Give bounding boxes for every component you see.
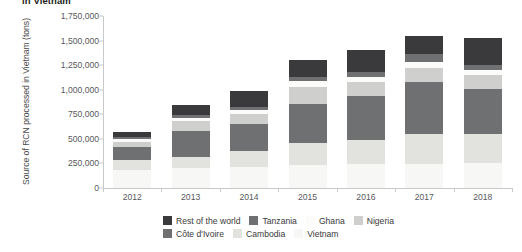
y-tick-label: 1,250,000 — [61, 60, 99, 70]
x-tick-mark — [512, 188, 513, 192]
legend-item[interactable]: Ghana — [306, 216, 345, 226]
legend-swatch-icon — [354, 216, 363, 225]
legend-row: Rest of the worldTanzaniaGhanaNigeria — [163, 214, 513, 227]
bar-segment — [289, 87, 327, 104]
bar-2014[interactable] — [230, 91, 268, 188]
bar-segment — [230, 91, 268, 107]
legend-label: Cambodia — [246, 229, 285, 239]
x-tick-label: 2015 — [298, 192, 317, 202]
x-tick-label: 2013 — [181, 192, 200, 202]
y-tick-mark — [99, 40, 103, 41]
bar-segment — [464, 75, 502, 88]
bar-segment — [230, 124, 268, 151]
bar-segment — [172, 157, 210, 169]
bar-segment — [172, 105, 210, 115]
bar-segment — [405, 68, 443, 82]
y-tick-mark — [99, 65, 103, 66]
y-tick-label: 1,000,000 — [61, 85, 99, 95]
bar-2013[interactable] — [172, 105, 210, 188]
bar-segment — [464, 163, 502, 188]
bar-segment — [347, 50, 385, 72]
x-tick-mark — [395, 188, 396, 192]
bar-segment — [113, 160, 151, 171]
legend-item[interactable]: Cambodia — [233, 229, 285, 239]
legend-item[interactable]: Tanzania — [249, 216, 296, 226]
y-tick-mark — [99, 89, 103, 90]
bar-2017[interactable] — [405, 36, 443, 188]
y-tick-label: 250,000 — [68, 158, 99, 168]
legend-swatch-icon — [294, 229, 303, 238]
legend-label: Vietnam — [307, 229, 338, 239]
y-tick-label: 500,000 — [68, 134, 99, 144]
bar-segment — [347, 140, 385, 165]
bar-2015[interactable] — [289, 60, 327, 188]
x-tick-mark — [161, 188, 162, 192]
bar-segment — [464, 38, 502, 66]
chart-container: in Vietnam Source of RCN processed in Vi… — [0, 0, 522, 252]
bar-segment — [172, 131, 210, 157]
x-tick-label: 2018 — [473, 192, 492, 202]
x-axis-line — [103, 188, 512, 189]
bar-segment — [289, 165, 327, 188]
y-tick-label: 750,000 — [68, 109, 99, 119]
y-tick-label: 1,500,000 — [61, 36, 99, 46]
bar-segment — [289, 60, 327, 77]
x-tick-label: 2014 — [240, 192, 259, 202]
legend-label: Tanzania — [262, 216, 296, 226]
x-tick-label: 2012 — [123, 192, 142, 202]
bar-segment — [347, 82, 385, 96]
bar-segment — [113, 170, 151, 188]
x-tick-label: 2016 — [356, 192, 375, 202]
bar-segment — [464, 134, 502, 163]
plot-area — [103, 16, 512, 188]
x-tick-mark — [220, 188, 221, 192]
y-axis-tick-labels: 0250,000500,000750,0001,000,0001,250,000… — [0, 0, 99, 252]
bar-segment — [405, 164, 443, 188]
legend-label: Ghana — [319, 216, 345, 226]
bar-segment — [347, 96, 385, 140]
legend-swatch-icon — [249, 216, 258, 225]
legend-item[interactable]: Vietnam — [294, 229, 338, 239]
x-tick-mark — [278, 188, 279, 192]
bar-segment — [405, 82, 443, 134]
legend-swatch-icon — [233, 229, 242, 238]
legend-row: Côte d'IvoireCambodiaVietnam — [163, 227, 513, 240]
x-axis-tick-labels: 2012201320142015201620172018 — [103, 192, 512, 206]
legend-label: Nigeria — [367, 216, 394, 226]
y-tick-mark — [99, 16, 103, 17]
y-tick-mark — [99, 138, 103, 139]
legend-swatch-icon — [306, 216, 315, 225]
x-tick-mark — [454, 188, 455, 192]
legend-label: Côte d'Ivoire — [176, 229, 224, 239]
bar-segment — [113, 147, 151, 160]
bar-segment — [230, 151, 268, 168]
y-tick-mark — [99, 163, 103, 164]
bar-segment — [347, 164, 385, 188]
bar-segment — [230, 114, 268, 124]
bar-segment — [405, 134, 443, 163]
bar-segment — [289, 143, 327, 166]
y-tick-mark — [99, 114, 103, 115]
legend-item[interactable]: Rest of the world — [163, 216, 240, 226]
legend-label: Rest of the world — [176, 216, 240, 226]
bar-segment — [230, 167, 268, 188]
x-tick-mark — [337, 188, 338, 192]
chart-legend: Rest of the worldTanzaniaGhanaNigeriaCôt… — [163, 214, 513, 240]
x-tick-label: 2017 — [415, 192, 434, 202]
bar-2018[interactable] — [464, 38, 502, 188]
bar-segment — [464, 89, 502, 134]
bar-2016[interactable] — [347, 50, 385, 188]
legend-swatch-icon — [163, 216, 172, 225]
bar-segment — [172, 121, 210, 131]
bar-2012[interactable] — [113, 132, 151, 188]
bar-segment — [172, 168, 210, 188]
x-tick-mark — [103, 188, 104, 192]
y-tick-label: 1,750,000 — [61, 11, 99, 21]
bar-segment — [405, 54, 443, 62]
bar-segment — [405, 36, 443, 55]
legend-item[interactable]: Côte d'Ivoire — [163, 229, 224, 239]
legend-item[interactable]: Nigeria — [354, 216, 394, 226]
legend-swatch-icon — [163, 229, 172, 238]
bar-segment — [289, 104, 327, 143]
